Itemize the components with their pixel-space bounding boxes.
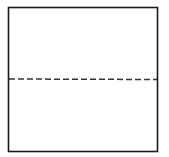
diagram-canvas — [0, 0, 169, 157]
square-diagram — [0, 0, 169, 157]
